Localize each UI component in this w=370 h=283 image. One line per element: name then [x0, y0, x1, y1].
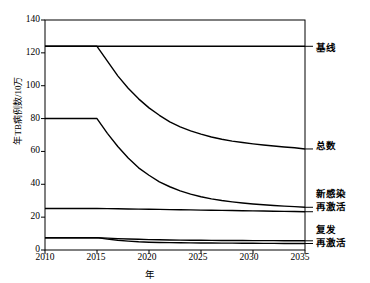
- curve-新感染: [45, 119, 305, 208]
- chart-container: 年TB病例数/10万 140 120 100 80 60 40 20 0 201…: [0, 0, 370, 283]
- label-leader-lines: [305, 46, 313, 243]
- axis-tick-marks: [41, 20, 305, 254]
- data-curves: [45, 46, 305, 243]
- plot-frame: [45, 20, 305, 250]
- chart-plot-area: [0, 0, 370, 283]
- curve-总数: [45, 46, 305, 149]
- curve-再激活: [45, 208, 305, 211]
